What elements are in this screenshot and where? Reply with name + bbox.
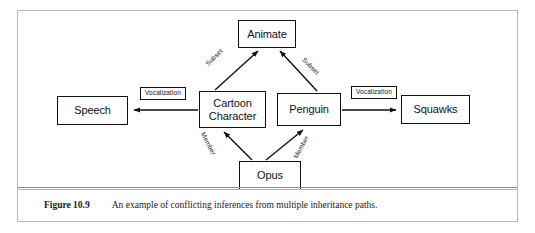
node-squawks[interactable]: Squawks (401, 95, 470, 124)
node-speech[interactable]: Speech (57, 96, 128, 125)
node-cartoon-character[interactable]: Cartoon Character (199, 91, 266, 128)
node-penguin[interactable]: Penguin (277, 93, 341, 126)
edge-label-vocalization-speech: Vocalization (140, 87, 186, 100)
figure-container: Animate Speech Cartoon Character Penguin… (0, 0, 535, 233)
figure-caption-text: An example of conflicting inferences fro… (112, 200, 378, 210)
figure-caption: Figure 10.9An example of conflicting inf… (44, 200, 504, 210)
caption-divider (18, 187, 517, 190)
divider-rule-thin (18, 189, 517, 190)
figure-caption-number: Figure 10.9 (44, 200, 90, 210)
node-opus[interactable]: Opus (239, 161, 301, 190)
node-animate[interactable]: Animate (238, 20, 296, 48)
divider-rule-thick (18, 187, 517, 188)
edge-label-vocalization-squawks: Vocalization (351, 86, 397, 99)
